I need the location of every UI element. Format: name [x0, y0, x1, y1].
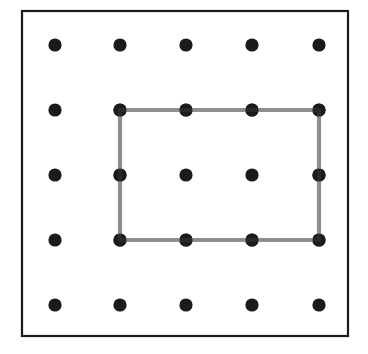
- peg-dot[interactable]: [48, 168, 61, 181]
- peg-dot[interactable]: [245, 233, 258, 246]
- peg-dot[interactable]: [245, 103, 258, 116]
- peg-dot[interactable]: [113, 168, 126, 181]
- peg-dot[interactable]: [245, 168, 258, 181]
- peg-dot[interactable]: [179, 103, 192, 116]
- peg-dot[interactable]: [179, 168, 192, 181]
- peg-dot[interactable]: [179, 298, 192, 311]
- peg-dot[interactable]: [113, 103, 126, 116]
- peg-dot[interactable]: [48, 103, 61, 116]
- peg-dot[interactable]: [245, 298, 258, 311]
- peg-dot[interactable]: [312, 168, 325, 181]
- peg-dot[interactable]: [113, 233, 126, 246]
- peg-dot[interactable]: [245, 38, 258, 51]
- peg-dot[interactable]: [113, 38, 126, 51]
- peg-dot[interactable]: [48, 233, 61, 246]
- geoboard-figure: [0, 0, 368, 354]
- peg-dot[interactable]: [312, 233, 325, 246]
- peg-dot[interactable]: [179, 233, 192, 246]
- peg-dot[interactable]: [113, 298, 126, 311]
- peg-dot[interactable]: [312, 38, 325, 51]
- peg-dot[interactable]: [48, 298, 61, 311]
- peg-dot[interactable]: [312, 298, 325, 311]
- peg-dot[interactable]: [312, 103, 325, 116]
- peg-dot[interactable]: [48, 38, 61, 51]
- geoboard-canvas: [0, 0, 368, 354]
- peg-dot[interactable]: [179, 38, 192, 51]
